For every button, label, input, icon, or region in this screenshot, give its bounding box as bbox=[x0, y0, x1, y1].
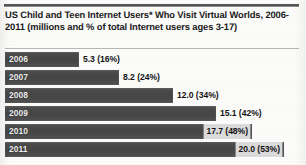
bar-year-label: 2010 bbox=[9, 124, 28, 139]
bar-value-label: 15.1 (42%) bbox=[220, 106, 262, 121]
bar-value-label: 12.0 (34%) bbox=[177, 88, 219, 103]
bar-value-label: 20.0 (53%) bbox=[236, 142, 282, 157]
top-rule-divider bbox=[4, 4, 299, 7]
title-divider bbox=[5, 48, 299, 49]
chart-title: US Child and Teen Internet Users* Who Vi… bbox=[5, 9, 295, 32]
bar-value-label: 5.3 (16%) bbox=[83, 52, 120, 67]
bar-year-label: 2007 bbox=[9, 70, 28, 85]
bar-row: 20065.3 (16%) bbox=[5, 52, 301, 67]
bar-value-label: 17.7 (48%) bbox=[204, 124, 250, 139]
bar-year-label: 2008 bbox=[9, 88, 28, 103]
bar-row: 200812.0 (34%) bbox=[5, 88, 301, 103]
bar-year-label: 2009 bbox=[9, 106, 28, 121]
bar-row: 200915.1 (42%) bbox=[5, 106, 301, 121]
bar-fill bbox=[5, 106, 216, 121]
bar-row: 201017.7 (48%) bbox=[5, 124, 301, 139]
bar-value-label: 8.2 (24%) bbox=[123, 70, 160, 85]
bar-fill bbox=[5, 88, 173, 103]
bar-row: 201120.0 (53%) bbox=[5, 142, 301, 157]
chart-card: US Child and Teen Internet Users* Who Vi… bbox=[0, 0, 306, 165]
bar-year-label: 2006 bbox=[9, 52, 28, 67]
bar-row: 20078.2 (24%) bbox=[5, 70, 301, 85]
bar-chart-plot-area: 20065.3 (16%)20078.2 (24%)200812.0 (34%)… bbox=[5, 52, 301, 162]
bar-year-label: 2011 bbox=[9, 142, 28, 157]
